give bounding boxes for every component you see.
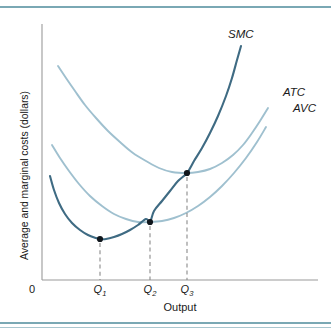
x-tick-subscript-1: 1 bbox=[102, 289, 106, 298]
x-axis-title: Output bbox=[163, 301, 196, 313]
marker-smc-minimum bbox=[97, 236, 103, 242]
cost-curves-figure: Average and marginal costs (dollars) Q1Q… bbox=[0, 0, 331, 332]
marker-smc-atc-intersection bbox=[184, 170, 190, 176]
x-tick-label-1: Q1 bbox=[94, 283, 107, 298]
x-tick-subscript-2: 2 bbox=[151, 289, 157, 298]
marker-smc-avc-intersection bbox=[147, 219, 153, 225]
curve-atc bbox=[58, 66, 268, 173]
x-tick-group: Q1Q2Q3 bbox=[94, 283, 195, 298]
x-tick-subscript-3: 3 bbox=[189, 289, 194, 298]
x-tick-label-2: Q2 bbox=[144, 283, 158, 298]
curve-avc bbox=[52, 127, 266, 222]
chart-canvas: Average and marginal costs (dollars) Q1Q… bbox=[0, 8, 331, 324]
y-axis-title-group: Average and marginal costs (dollars) bbox=[19, 91, 30, 260]
intersection-marker-group bbox=[97, 170, 190, 242]
curve-label-atc: ATC bbox=[282, 86, 306, 98]
curve-label-avc: AVC bbox=[292, 102, 317, 114]
dropline-group bbox=[100, 177, 187, 280]
origin-label: 0 bbox=[29, 283, 35, 295]
x-tick-label-3: Q3 bbox=[181, 283, 195, 298]
y-axis-title: Average and marginal costs (dollars) bbox=[19, 91, 30, 260]
curve-smc bbox=[50, 46, 241, 239]
curve-label-smc: SMC bbox=[228, 28, 254, 40]
bottom-divider-rule-secondary bbox=[0, 327, 331, 328]
